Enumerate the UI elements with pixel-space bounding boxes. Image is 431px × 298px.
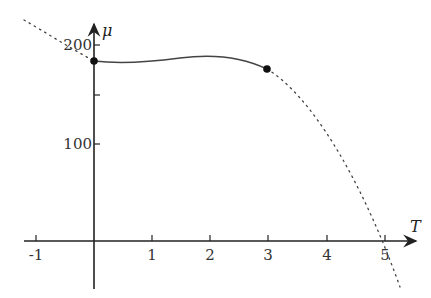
y-tick-label: 200 — [63, 36, 92, 54]
x-ticks — [36, 235, 385, 241]
x-tick-label: 3 — [263, 246, 273, 264]
x-axis-label: T — [410, 217, 422, 236]
data-point — [90, 57, 98, 65]
y-axis-label: μ — [102, 21, 112, 40]
solid-curve — [94, 56, 267, 69]
x-tick-label: 1 — [147, 246, 157, 264]
chart: -1 1 2 3 4 5 200 100 T μ — [0, 0, 431, 298]
data-point — [263, 65, 271, 73]
x-tick-label: 4 — [322, 246, 332, 264]
x-tick-label: -1 — [29, 246, 44, 264]
y-tick-label: 100 — [63, 135, 92, 153]
x-tick-label: 2 — [205, 246, 215, 264]
